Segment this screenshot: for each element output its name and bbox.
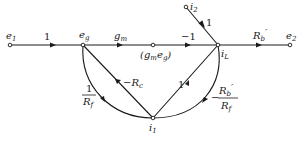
label-node-e1: e1 (6, 30, 16, 43)
gain-iL-e2: Rb′ (252, 27, 268, 43)
gain-i2-iL: 1 (206, 17, 212, 28)
gain-gmeg-iL: −1 (181, 31, 196, 42)
node-i1 (151, 116, 155, 120)
arrowhead-i2-iL (199, 20, 206, 28)
arrowhead-iL-e2 (256, 43, 262, 48)
label-node-e2: e2 (286, 30, 297, 43)
gain-i1-eg: −Rc (123, 77, 143, 90)
node-iL (216, 43, 220, 47)
node-e1 (8, 43, 12, 47)
arrowhead-gmeg-iL (185, 43, 191, 48)
gain-i1-iL: 1 (178, 79, 184, 90)
label-node-i2: i2 (190, 1, 198, 14)
arrowhead-e1-eg (50, 43, 56, 48)
node-eg (81, 43, 85, 47)
gain-iL-i1-denominator: Rf (220, 100, 233, 113)
gain-eg-i1-numerator: 1 (86, 83, 92, 94)
label-node-gmeg: (gmeg) (140, 49, 171, 62)
gain-eg-i1: 1 Rf (82, 83, 96, 109)
label-node-iL: iL (221, 48, 229, 61)
signal-flow-graph: e1 eg (gmeg) iL e2 i2 i1 1 gm −1 Rb′ 1 1… (0, 0, 304, 141)
gain-eg-i1-denominator: Rf (82, 96, 95, 109)
gain-iL-i1: − Rb′ Rf (211, 82, 238, 113)
node-gmeg (151, 43, 155, 47)
node-e2 (288, 43, 292, 47)
label-node-eg: eg (79, 29, 90, 42)
arrowhead-eg-gmeg (117, 43, 123, 48)
node-i2 (184, 5, 188, 9)
gain-eg-gmeg: gm (114, 30, 127, 43)
gain-e1-eg: 1 (44, 31, 50, 42)
label-node-i1: i1 (149, 122, 157, 135)
gain-iL-i1-numerator: Rb′ (218, 82, 234, 98)
